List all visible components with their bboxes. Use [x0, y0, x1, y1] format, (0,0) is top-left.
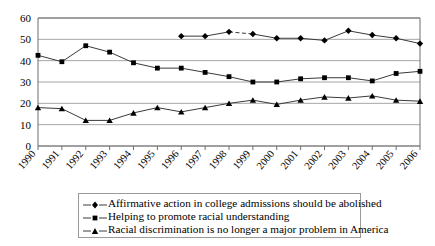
series-line-segment — [134, 108, 158, 113]
x-axis-tick-label: 1992 — [63, 148, 85, 171]
x-axis-tick-label: 1990 — [16, 148, 38, 171]
data-point-diamond-marker — [345, 28, 351, 34]
data-point-square-marker — [227, 74, 232, 79]
data-point-square-marker — [418, 69, 423, 74]
series-line-segment — [205, 72, 229, 76]
data-point-diamond-marker — [297, 35, 303, 41]
series-line-segment — [181, 68, 205, 72]
data-point-diamond-marker — [202, 33, 208, 39]
data-point-square-marker — [394, 71, 399, 76]
data-point-diamond-marker — [393, 35, 399, 41]
series-line-segment — [157, 108, 181, 112]
y-axis-tick-label: 30 — [20, 76, 32, 88]
series-line-segment — [134, 63, 158, 68]
legend-item-label: Racial discrimination is no longer a maj… — [108, 223, 389, 235]
data-point-square-marker — [322, 75, 327, 80]
series-line-segment — [396, 100, 420, 101]
data-point-square-marker — [250, 80, 255, 85]
chart-container: 0102030405060199019911992199319941995199… — [0, 0, 435, 246]
series-line-segment — [372, 35, 396, 38]
data-point-square-marker — [370, 79, 375, 84]
series-line-segment — [348, 96, 372, 98]
data-point-diamond-marker — [274, 35, 280, 41]
data-point-square-marker — [59, 59, 64, 64]
series-line-segment — [110, 52, 134, 63]
series-line-segment — [62, 46, 86, 62]
legend-square-marker-icon — [82, 210, 108, 222]
x-axis-tick-label: 2004 — [350, 148, 372, 172]
series-line-segment — [372, 73, 396, 80]
data-point-square-marker — [274, 80, 279, 85]
y-axis-tick-label: 20 — [20, 97, 32, 109]
series-line-segment — [396, 71, 420, 73]
legend-diamond-marker-icon — [82, 197, 108, 209]
data-point-square-marker — [83, 43, 88, 48]
y-axis-tick-label: 40 — [20, 55, 32, 67]
legend-item-racial-understanding: Helping to promote racial understanding — [82, 209, 356, 222]
chart-legend: Affirmative action in college admissions… — [78, 193, 361, 238]
x-axis-tick-label: 1996 — [159, 148, 181, 171]
x-axis-tick-label: 1995 — [135, 148, 157, 171]
series-line-segment — [325, 97, 349, 98]
data-point-square-marker — [155, 66, 160, 71]
x-axis-tick-label: 2005 — [374, 148, 396, 171]
x-axis-tick-label: 2006 — [398, 148, 420, 171]
data-point-diamond-marker — [369, 32, 375, 38]
x-axis-tick-label: 2000 — [254, 148, 276, 171]
x-axis-tick-label: 1994 — [111, 148, 133, 172]
legend-item-affirmative-action: Affirmative action in college admissions… — [82, 196, 356, 209]
x-axis-tick-label: 1997 — [183, 148, 205, 171]
series-line-segment — [205, 103, 229, 107]
x-axis-tick-label: 2002 — [302, 148, 324, 171]
series-line-segment — [253, 34, 277, 38]
x-axis-tick-label: 1993 — [87, 148, 109, 171]
series-line-segment — [301, 78, 325, 79]
series-line-segment — [62, 109, 86, 121]
series-line-segment — [372, 96, 396, 100]
data-point-diamond-marker — [321, 37, 327, 43]
data-point-square-marker — [36, 53, 41, 58]
x-axis-tick-label: 1991 — [39, 148, 61, 171]
data-point-diamond-marker — [178, 33, 184, 39]
series-line-segment — [38, 108, 62, 109]
data-point-square-marker — [107, 50, 112, 55]
data-point-diamond-marker — [417, 40, 423, 46]
x-axis-tick-label: 2003 — [326, 148, 348, 171]
x-axis-tick-label: 1999 — [230, 148, 252, 171]
series-line-segment — [205, 32, 229, 36]
y-axis-tick-label: 10 — [20, 119, 32, 131]
data-point-diamond-marker — [250, 31, 256, 37]
legend-item-racial-discrimination: Racial discrimination is no longer a maj… — [82, 223, 356, 236]
legend-item-label: Affirmative action in college admissions… — [108, 197, 382, 209]
data-point-square-marker — [203, 70, 208, 75]
series-line-segment — [348, 31, 372, 35]
series-line-segment — [86, 46, 110, 52]
series-line-segment — [181, 108, 205, 112]
series-line-segment — [348, 78, 372, 81]
x-axis-tick-label: 1998 — [207, 148, 229, 171]
data-point-diamond-marker — [226, 29, 232, 35]
series-line-segment — [229, 77, 253, 82]
y-axis-tick-label: 50 — [20, 33, 32, 45]
legend-triangle-marker-icon — [82, 223, 108, 235]
series-line-segment — [229, 32, 253, 34]
data-point-square-marker — [179, 66, 184, 71]
y-axis-tick-label: 60 — [20, 12, 32, 24]
series-line-segment — [301, 97, 325, 100]
x-axis-tick-label: 2001 — [278, 148, 300, 171]
data-point-square-marker — [346, 75, 351, 80]
series-line-segment — [110, 113, 134, 120]
data-point-square-marker — [131, 60, 136, 65]
legend-item-label: Helping to promote racial understanding — [108, 210, 289, 222]
data-point-square-marker — [298, 76, 303, 81]
